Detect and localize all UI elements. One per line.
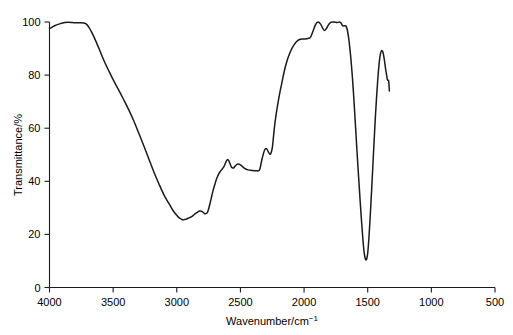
- x-tick-label: 3000: [165, 296, 189, 308]
- x-tick-label: 1500: [355, 296, 379, 308]
- ir-spectrum-figure: 020406080100 400035003000250020001500100…: [0, 0, 513, 335]
- y-tick-label: 0: [34, 282, 40, 294]
- x-tick-label: 2500: [228, 296, 252, 308]
- spectrum-plot-svg: 020406080100 400035003000250020001500100…: [0, 0, 513, 335]
- x-tick-label: 1000: [419, 296, 443, 308]
- x-tick-label: 2000: [292, 296, 316, 308]
- x-axis-title-main: Wavenumber/cm: [226, 315, 309, 327]
- y-tick-label: 60: [28, 122, 40, 134]
- y-tick-label: 80: [28, 69, 40, 81]
- y-axis-title: Transmittance/%: [12, 114, 24, 196]
- x-tick-label: 3500: [101, 296, 125, 308]
- x-tick-label: 4000: [37, 296, 61, 308]
- y-tick-label: 20: [28, 228, 40, 240]
- x-axis-title-superscript: −1: [309, 314, 319, 323]
- x-tick-label: 500: [486, 296, 504, 308]
- figure-background: [0, 0, 513, 335]
- y-tick-label: 40: [28, 175, 40, 187]
- y-tick-label: 100: [22, 16, 40, 28]
- x-axis-title: Wavenumber/cm−1: [226, 314, 318, 327]
